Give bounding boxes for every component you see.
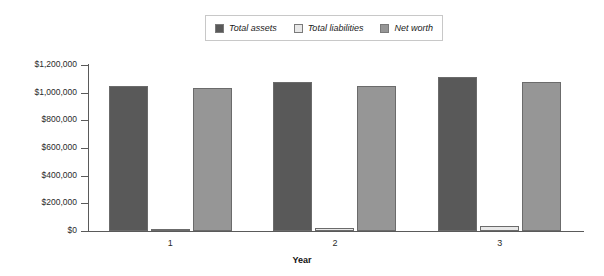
legend-label: Net worth (394, 24, 433, 33)
y-axis-tick-label: $400,000 (42, 170, 77, 180)
y-axis-tick-mark (81, 65, 88, 66)
x-axis-line (88, 231, 584, 232)
bar[interactable] (522, 82, 561, 231)
bar[interactable] (109, 86, 148, 231)
plot-area (88, 65, 582, 231)
bar[interactable] (480, 226, 519, 231)
bar[interactable] (357, 86, 396, 231)
legend-swatch-icon (294, 24, 303, 33)
x-axis-tick-label: 1 (140, 238, 200, 248)
x-axis-title: Year (0, 255, 604, 265)
bar-group (88, 65, 253, 231)
legend-label: Total assets (229, 24, 277, 33)
bar[interactable] (438, 77, 477, 231)
legend-entry[interactable]: Net worth (380, 24, 433, 33)
bar[interactable] (273, 82, 312, 231)
y-axis-tick-mark (81, 93, 88, 94)
bar[interactable] (193, 88, 232, 231)
bar[interactable] (315, 228, 354, 231)
y-axis-tick-label: $800,000 (42, 114, 77, 124)
bar-group (417, 65, 582, 231)
legend-swatch-icon (215, 24, 224, 33)
y-axis-tick-label: $1,200,000 (34, 59, 77, 69)
y-axis-tick-mark (81, 203, 88, 204)
y-axis-tick-mark (81, 148, 88, 149)
bar-chart: Total assetsTotal liabilitiesNet worth $… (0, 0, 604, 276)
bar-group (253, 65, 418, 231)
x-axis-tick-label: 2 (305, 238, 365, 248)
y-axis-tick-label: $600,000 (42, 142, 77, 152)
y-axis-tick-mark (81, 231, 88, 232)
legend-entry[interactable]: Total assets (215, 24, 277, 33)
chart-legend: Total assetsTotal liabilitiesNet worth (205, 15, 443, 41)
legend-swatch-icon (380, 24, 389, 33)
bar[interactable] (151, 229, 190, 231)
x-axis-tick-label: 3 (470, 238, 530, 248)
y-axis-tick-mark (81, 120, 88, 121)
y-axis-tick-mark (81, 176, 88, 177)
legend-entry[interactable]: Total liabilities (294, 24, 364, 33)
y-axis-tick-label: $200,000 (42, 197, 77, 207)
legend-label: Total liabilities (308, 24, 364, 33)
y-axis-tick-label: $1,000,000 (34, 87, 77, 97)
y-axis-tick-label: $0 (68, 225, 77, 235)
